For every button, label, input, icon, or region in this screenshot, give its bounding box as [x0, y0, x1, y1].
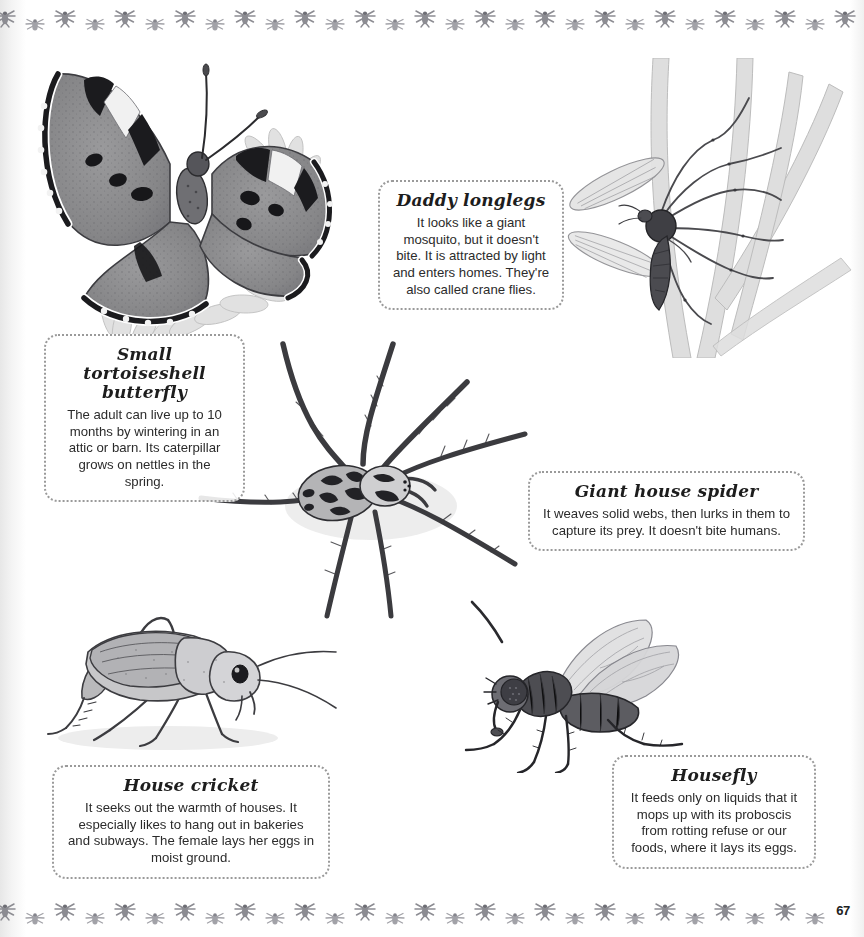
housefly-bristle — [472, 602, 502, 642]
housefly-wings — [556, 620, 678, 706]
housefly-icon — [460, 598, 690, 773]
caption-title-butterfly: Small tortoiseshell butterfly — [58, 345, 231, 402]
caption-body-house-cricket: It seeks out the warmth of houses. It es… — [66, 800, 316, 867]
caption-house-cricket[interactable]: House cricket It seeks out the warmth of… — [52, 765, 330, 879]
bottom-insect-border — [0, 899, 864, 937]
housefly-compound-eye — [501, 679, 527, 705]
caption-title-housefly: Housefly — [626, 766, 802, 785]
caption-body-giant-house-spider: It weaves solid webs, then lurks in them… — [542, 506, 791, 539]
top-border-pattern-icon — [0, 0, 864, 38]
book-page: Small tortoiseshell butterfly The adult … — [0, 0, 864, 937]
caption-housefly[interactable]: Housefly It feeds only on liquids that i… — [612, 755, 816, 869]
top-insect-border — [0, 0, 864, 38]
daddy-longlegs-crane-fly-icon — [545, 58, 860, 358]
grass-blades — [651, 58, 851, 358]
page-number: 67 — [836, 903, 850, 918]
caption-body-housefly: It feeds only on liquids that it mops up… — [626, 790, 802, 857]
giant-house-spider-icon — [195, 330, 545, 620]
cricket-antennae — [258, 652, 336, 708]
cricket-illustration — [18, 588, 338, 768]
caption-title-daddy-longlegs: Daddy longlegs — [392, 191, 550, 210]
spider-illustration — [195, 330, 545, 620]
bottom-border-pattern-icon — [0, 899, 864, 937]
butterfly-body — [173, 166, 211, 226]
caption-body-daddy-longlegs: It looks like a giant mosquito, but it d… — [392, 215, 550, 298]
caption-title-giant-house-spider: Giant house spider — [542, 482, 791, 501]
butterfly-illustration — [22, 46, 362, 336]
housefly-proboscis — [494, 702, 498, 730]
small-tortoiseshell-butterfly-icon — [22, 46, 362, 336]
caption-body-butterfly: The adult can live up to 10 months by wi… — [58, 407, 231, 490]
caption-giant-house-spider[interactable]: Giant house spider It weaves solid webs,… — [528, 471, 805, 551]
butterfly-thorax — [187, 152, 209, 176]
caption-daddy-longlegs[interactable]: Daddy longlegs It looks like a giant mos… — [378, 180, 564, 310]
caption-small-tortoiseshell-butterfly[interactable]: Small tortoiseshell butterfly The adult … — [44, 334, 245, 502]
housefly-illustration — [460, 598, 690, 773]
cricket-eye — [232, 665, 248, 683]
cranefly-illustration — [545, 58, 860, 358]
house-cricket-icon — [18, 588, 338, 768]
caption-title-house-cricket: House cricket — [66, 776, 316, 795]
